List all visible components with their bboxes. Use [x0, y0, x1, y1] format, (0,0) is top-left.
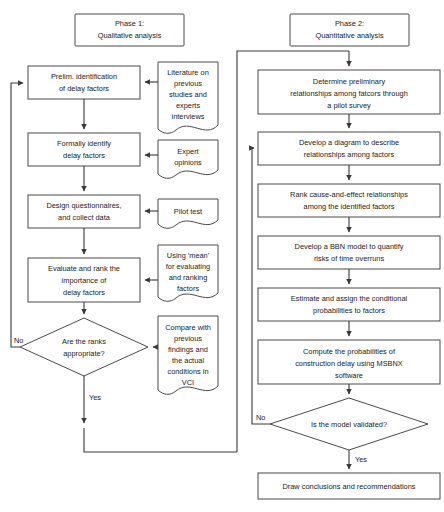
phase2-step-estimate-conditional-probabilities: Estimate and assign the conditional prob… [258, 288, 440, 321]
p1doc5-line4: the actual [172, 356, 204, 365]
flowchart-page: Phase 1: Qualitative analysis Phase 2: Q… [0, 0, 444, 512]
conn-p1d1-no-feedback [11, 83, 23, 347]
phase2-final-draw-conclusions: Draw conclusions and recommendations [258, 473, 440, 499]
phase1-step-evaluate-and-rank: Evaluate and rank the importance of dela… [28, 258, 140, 302]
p1doc2-line1: Expert [177, 147, 198, 156]
p2s6-line1: Compute the probabilities of [303, 347, 396, 356]
p1doc5-line2: previous [174, 334, 202, 343]
p1s4-line1: Evaluate and rank the [48, 264, 120, 273]
p2s4-line2: risks of time overruns [314, 254, 385, 263]
p1s1-line2: of delay factors [59, 84, 109, 93]
p2d1-line1: Is the model validated? [311, 420, 387, 429]
phase1-document-expert-opinions: Expert opinions [158, 140, 218, 178]
p1doc5-line5: conditions in [167, 367, 208, 376]
p2s2-line2: relationships among factors [304, 150, 395, 159]
p1doc4-line1: Using 'mean' [167, 251, 210, 260]
p2s6-line3: software [335, 371, 363, 380]
p1s3-line1: Design questionnaires, [46, 201, 121, 210]
phase2-step-develop-diagram: Develop a diagram to describe relationsh… [258, 132, 440, 165]
phase1-document-pilot-test: Pilot test [158, 199, 218, 228]
p1-yes-label: Yes [89, 393, 101, 402]
phase1-document-literature: Literature on previous studies and exper… [158, 62, 218, 133]
phase2-step-rank-cause-effect: Rank cause-and-effect relationships amon… [258, 184, 440, 217]
p1doc4-line4: factors [177, 284, 199, 293]
phase1-step-design-questionnaires: Design questionnaires, and collect data [28, 195, 140, 228]
phase2-step-compute-probabilities: Compute the probabilities of constructio… [258, 340, 440, 384]
phase1-document-compare-with-previous: Compare with previous findings and the a… [158, 316, 218, 394]
p1doc5-line1: Compare with [165, 323, 211, 332]
phase1-document-using-mean: Using 'mean' for evaluating and ranking … [158, 245, 218, 301]
p2s1-line1: Determine preliminary [313, 77, 386, 86]
p1doc4-line2: for evaluating [166, 262, 210, 271]
p2-yes-label: Yes [355, 455, 367, 464]
p1s1-line1: Prelim. identification [51, 72, 117, 81]
p1d1-line1: Are the ranks [62, 337, 106, 346]
p2s1-line3: a pilot survey [327, 101, 371, 110]
p1doc2-line2: opinions [174, 158, 202, 167]
p1s4-line2: importance of [62, 276, 108, 285]
p1doc1-line5: interviews [172, 112, 205, 121]
p1s2-line2: delay factors [63, 151, 105, 160]
p2s5-line1: Estimate and assign the conditional [291, 294, 408, 303]
phase1-step-formally-identify: Formally identify delay factors [28, 133, 140, 166]
p2s6-line2: construction delay using MSBNX [295, 359, 403, 368]
p2-no-label: No [256, 413, 265, 422]
phase1-header-line2: Qualitative analysis [98, 31, 162, 40]
phase1-decision-are-ranks-appropriate: Are the ranks appropriate? [20, 318, 148, 376]
p1s3-line2: and collect data [58, 213, 111, 222]
phase1-header-line1: Phase 1: [115, 19, 144, 28]
conn-p1-to-p2-bottom [84, 428, 237, 452]
phase2-decision-is-model-validated: Is the model validated? [270, 398, 428, 450]
phase2-step-determine-preliminary: Determine preliminary relationships amon… [258, 70, 440, 114]
p2s3-line1: Rank cause-and-effect relationships [290, 190, 408, 199]
p1doc1-line4: experts [176, 101, 201, 110]
p1doc5-line3: findings and [168, 345, 208, 354]
flowchart-canvas: Phase 1: Qualitative analysis Phase 2: Q… [0, 0, 444, 512]
phase2-step-develop-bbn-model: Develop a BBN model to quantify risks of… [258, 236, 440, 269]
p1doc4-line3: and ranking [169, 273, 208, 282]
phase1-step-prelim-identification: Prelim. identification of delay factors [28, 66, 140, 99]
p1doc3-line1: Pilot test [174, 207, 202, 216]
p2end-line1: Draw conclusions and recommendations [282, 482, 415, 491]
p1doc1-line2: previous [174, 79, 202, 88]
p2s4-line1: Develop a BBN model to quantify [295, 242, 404, 251]
p1-no-label: No [14, 336, 23, 345]
p1s2-line1: Formally identify [57, 139, 111, 148]
p1d1-line2: appropriate? [63, 349, 105, 358]
p1doc1-line1: Literature on [167, 68, 209, 77]
phase2-header: Phase 2: Quantitative analysis [290, 14, 409, 46]
p1s4-line3: delay factors [63, 288, 105, 297]
p2s3-line2: among the identified factors [304, 202, 395, 211]
phase2-header-line1: Phase 2: [335, 19, 364, 28]
phase2-header-line2: Quantitative analysis [315, 31, 383, 40]
p2s5-line2: probabilities to factors [313, 306, 385, 315]
p1doc1-line3: studies and [169, 90, 207, 99]
p2s1-line2: relationships among fatcors through [290, 89, 408, 98]
phase1-header: Phase 1: Qualitative analysis [75, 14, 184, 46]
p1doc5-line6: VCI [182, 378, 194, 387]
p2s2-line1: Develop a diagram to describe [299, 138, 399, 147]
